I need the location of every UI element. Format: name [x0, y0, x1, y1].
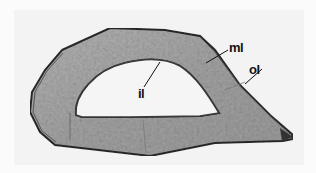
label-ml: ml: [229, 41, 243, 54]
label-il: il: [138, 87, 144, 100]
section-drawing: [0, 0, 316, 173]
label-ol: ol: [249, 63, 260, 76]
micrograph-figure: ml ol il: [0, 0, 316, 173]
